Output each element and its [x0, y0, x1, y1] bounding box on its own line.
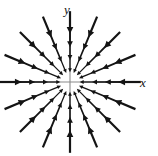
field-arrow [104, 32, 120, 48]
vector-field-figure: y x [0, 0, 158, 156]
arrow-head [67, 41, 73, 47]
field-arrow [88, 127, 97, 148]
field-arrow [53, 89, 63, 99]
field-arrow [61, 60, 67, 73]
field-arrow [73, 60, 79, 73]
arrow-head [80, 80, 84, 84]
arrow-shaft [43, 131, 50, 147]
field-arrow [53, 65, 63, 75]
arrow-shaft [5, 55, 21, 62]
arrow-head [67, 117, 73, 123]
field-arrow [43, 127, 52, 148]
field-arrow [48, 73, 61, 79]
field-arrow [43, 17, 52, 38]
field-arrow [88, 17, 97, 38]
arrow-shaft [119, 102, 135, 109]
field-arrow [115, 55, 136, 64]
field-arrow [20, 32, 36, 48]
arrow-shaft [43, 17, 50, 33]
arrow-head [68, 55, 73, 60]
arrow-shaft [90, 131, 97, 147]
field-arrow [5, 55, 26, 64]
field-arrow [115, 100, 136, 109]
arrow-head [29, 79, 35, 85]
field-arrow [79, 73, 92, 79]
arrow-head [67, 27, 74, 34]
field-arrow [79, 85, 92, 91]
arrow-head [118, 79, 125, 86]
arrow-head [68, 104, 73, 109]
field-arrow [68, 92, 72, 106]
field-arrow [48, 85, 61, 91]
field-arrow [0, 79, 22, 86]
arrow-shaft [20, 120, 32, 133]
arrow-head [15, 79, 22, 86]
field-arrow [80, 80, 94, 84]
arrow-shaft [119, 55, 135, 62]
field-arrow [104, 116, 120, 132]
field-arrow [73, 91, 79, 104]
arrow-head [105, 79, 111, 85]
field-arrow [118, 79, 141, 86]
arrow-head [68, 92, 72, 96]
arrow-head [68, 68, 72, 72]
arrow-head [56, 80, 60, 84]
arrow-shaft [108, 32, 121, 44]
field-arrow [77, 89, 87, 99]
arrow-shaft [90, 17, 97, 33]
arrow-head [67, 130, 74, 137]
field-arrow [77, 65, 87, 75]
field-arrow [61, 91, 67, 104]
field-arrow [67, 130, 74, 153]
arrow-head [43, 80, 48, 85]
field-arrow [68, 58, 72, 72]
arrow-head [92, 80, 97, 85]
field-arrow [5, 100, 26, 109]
field-arrow [20, 116, 36, 132]
field-arrow [46, 80, 60, 84]
x-axis-label: x [140, 76, 146, 89]
arrow-shaft [108, 120, 121, 133]
y-axis-label: y [64, 3, 70, 16]
vector-field-canvas [0, 0, 158, 156]
arrow-shaft [20, 32, 32, 44]
arrow-shaft [5, 102, 21, 109]
